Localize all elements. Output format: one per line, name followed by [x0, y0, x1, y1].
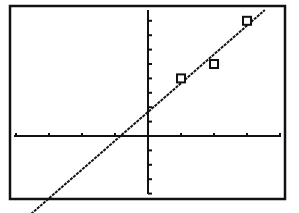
- data-point-square-icon: [243, 17, 251, 25]
- data-point-square-icon: [210, 60, 218, 68]
- data-point-square-icon: [177, 74, 185, 82]
- graph-screen: [0, 0, 299, 213]
